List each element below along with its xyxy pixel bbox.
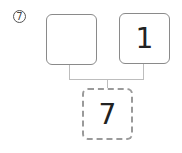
input-box-right: 1 — [119, 13, 170, 64]
result-box-value: 7 — [99, 98, 117, 131]
connector-center-vertical — [107, 79, 108, 88]
connector-right-vertical — [143, 64, 144, 80]
result-box: 7 — [82, 88, 133, 140]
input-box-right-value: 1 — [136, 22, 154, 55]
input-box-left — [46, 14, 97, 65]
step-number-badge: 7 — [13, 10, 26, 23]
step-number-text: 7 — [16, 11, 22, 22]
connector-left-vertical — [69, 65, 70, 80]
